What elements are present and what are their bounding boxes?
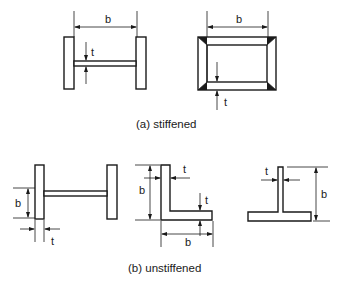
caption-stiffened: (a) stiffened [136,118,197,130]
i-web [74,61,136,66]
dim-label-b: b [185,236,191,248]
dim-label-b: b [15,197,21,209]
unstiffened-angle-section: b t t b [135,163,213,248]
caption-unstiffened: (b) unstiffened [128,262,201,274]
dim-label-b: b [105,13,111,25]
dim-label-t: t [91,46,94,58]
i-left-flange [64,37,74,89]
dim-label-t: t [51,235,54,247]
unstiffened-i-section: b t [13,165,117,247]
angle-profile [161,165,212,220]
dim-label-t: t [205,194,208,206]
i-right-flange [107,165,117,219]
dim-label-b: b [139,184,145,196]
stiffened-box-section: b t [198,11,276,110]
i-left-flange [35,165,44,219]
cross-section-diagram: b t b t (a) stiffened [0,0,344,286]
dim-label-t: t [224,96,227,108]
unstiffened-tee-section: t b [248,165,330,221]
dim-label-b: b [321,188,327,200]
i-right-flange [136,37,146,89]
dim-label-t: t [183,163,186,175]
stiffened-i-section: b t [64,11,146,89]
i-web [44,191,107,196]
dim-label-t: t [265,165,268,177]
tee-profile [248,167,311,221]
dim-label-b: b [236,13,242,25]
